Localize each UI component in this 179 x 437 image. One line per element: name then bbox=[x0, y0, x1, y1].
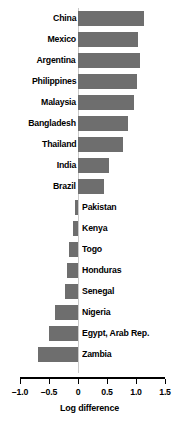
bar bbox=[65, 284, 78, 299]
bar-chart: ChinaMexicoArgentinaPhilippinesMalaysiaB… bbox=[0, 0, 179, 437]
bar bbox=[49, 326, 78, 341]
axis-tick-label: 0.5 bbox=[101, 386, 113, 397]
bar-row: Nigeria bbox=[0, 302, 179, 323]
bar-row: Malaysia bbox=[0, 92, 179, 113]
category-label: Argentina bbox=[37, 52, 76, 67]
category-label: Mexico bbox=[47, 31, 76, 46]
bar-row: China bbox=[0, 8, 179, 29]
bar-row: Argentina bbox=[0, 50, 179, 71]
category-label: China bbox=[53, 10, 76, 25]
plot-area: ChinaMexicoArgentinaPhilippinesMalaysiaB… bbox=[0, 8, 179, 373]
x-axis-title: Log difference bbox=[5, 402, 173, 413]
axis-tick bbox=[20, 379, 21, 384]
axis-tick-label: –1.0 bbox=[12, 386, 28, 397]
bar bbox=[69, 242, 78, 257]
bar bbox=[55, 305, 78, 320]
category-label: India bbox=[57, 157, 76, 172]
bar bbox=[75, 200, 78, 215]
bar bbox=[78, 179, 104, 194]
bar-row: Brazil bbox=[0, 176, 179, 197]
bar bbox=[78, 11, 144, 26]
axis-tick bbox=[78, 379, 79, 384]
category-label: Nigeria bbox=[82, 304, 110, 319]
bar-row: Mexico bbox=[0, 29, 179, 50]
category-label: Egypt, Arab Rep. bbox=[82, 325, 149, 340]
bar bbox=[78, 32, 138, 47]
bar bbox=[78, 95, 134, 110]
bar bbox=[78, 137, 123, 152]
axis-tick-label: –0.5 bbox=[41, 386, 57, 397]
category-label: Bangladesh bbox=[28, 115, 76, 130]
bar bbox=[78, 53, 140, 68]
category-label: Zambia bbox=[82, 346, 111, 361]
category-label: Senegal bbox=[82, 283, 114, 298]
bar-row: Senegal bbox=[0, 281, 179, 302]
axis-tick bbox=[49, 379, 50, 384]
axis-tick bbox=[136, 379, 137, 384]
axis-line bbox=[20, 377, 165, 379]
bar bbox=[78, 116, 128, 131]
axis-tick-label: 0 bbox=[76, 386, 81, 397]
bar-row: Kenya bbox=[0, 218, 179, 239]
bar-row: Philippines bbox=[0, 71, 179, 92]
bar-row: Togo bbox=[0, 239, 179, 260]
category-label: Pakistan bbox=[82, 199, 116, 214]
category-label: Thailand bbox=[42, 136, 76, 151]
category-label: Kenya bbox=[82, 220, 107, 235]
category-label: Brazil bbox=[53, 178, 76, 193]
bar-row: Honduras bbox=[0, 260, 179, 281]
x-axis: –1.0–0.500.51.01.5 Log difference bbox=[0, 373, 179, 437]
category-label: Philippines bbox=[31, 73, 76, 88]
bar bbox=[78, 158, 109, 173]
axis-tick bbox=[165, 379, 166, 384]
axis-tick-label: 1.0 bbox=[130, 386, 142, 397]
axis-tick bbox=[107, 379, 108, 384]
bar bbox=[73, 221, 78, 236]
bar-row: Egypt, Arab Rep. bbox=[0, 323, 179, 344]
category-label: Malaysia bbox=[41, 94, 76, 109]
bar-row: India bbox=[0, 155, 179, 176]
bar-row: Zambia bbox=[0, 344, 179, 365]
bar bbox=[38, 347, 78, 362]
bar-row: Pakistan bbox=[0, 197, 179, 218]
axis-tick-label: 1.5 bbox=[159, 386, 171, 397]
category-label: Honduras bbox=[82, 262, 121, 277]
bar bbox=[78, 74, 137, 89]
bar-row: Thailand bbox=[0, 134, 179, 155]
bar-row: Bangladesh bbox=[0, 113, 179, 134]
category-label: Togo bbox=[82, 241, 102, 256]
bar bbox=[67, 263, 78, 278]
